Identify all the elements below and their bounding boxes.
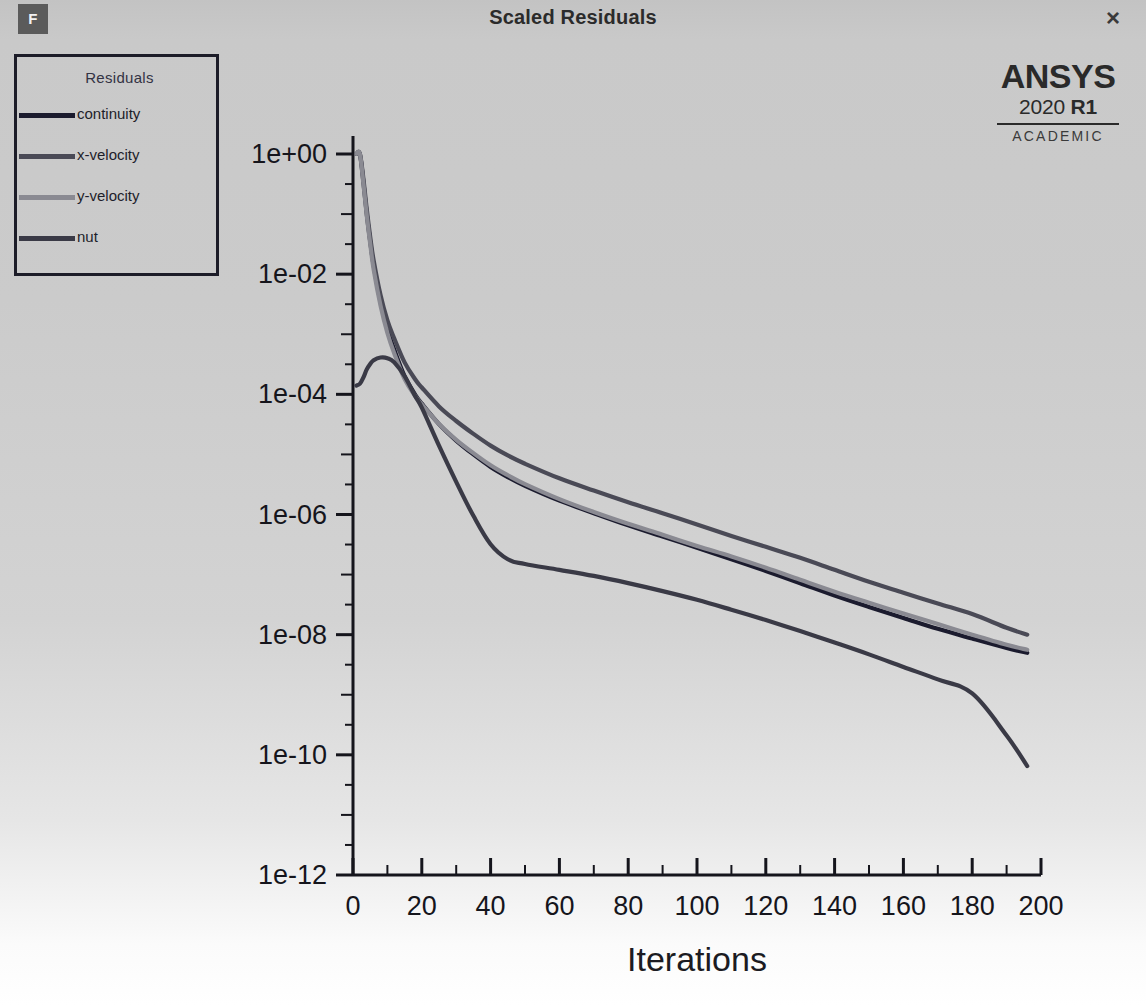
x-tick-label: 80 [613, 891, 643, 921]
legend-color-swatch-icon [19, 236, 75, 241]
series-line-y-velocity [356, 152, 1027, 650]
series-line-x-velocity [356, 152, 1027, 635]
legend-item-label: continuity [77, 105, 140, 122]
legend-color-swatch-icon [19, 195, 75, 200]
x-tick-label: 0 [345, 891, 360, 921]
x-tick-label: 160 [881, 891, 926, 921]
x-tick-label: 100 [674, 891, 719, 921]
ansys-logo: ANSYS 2020 R1 ACADEMIC [978, 58, 1138, 144]
ansys-license-label: ACADEMIC [978, 128, 1138, 144]
ansys-wordmark: ANSYS [978, 58, 1138, 94]
y-tick-label: 1e-10 [258, 740, 327, 770]
series-line-continuity [356, 152, 1027, 653]
y-axis-tick-labels: 1e+001e-021e-041e-061e-081e-101e-12 [251, 139, 327, 890]
x-tick-label: 180 [950, 891, 995, 921]
legend-item-label: nut [77, 228, 98, 245]
series-line-nut [356, 357, 1027, 766]
ansys-version-year: 2020 [1019, 95, 1065, 118]
series-lines [356, 152, 1027, 766]
y-tick-label: 1e-06 [258, 500, 327, 530]
legend-item-label: x-velocity [77, 146, 140, 163]
y-tick-label: 1e-02 [258, 259, 327, 289]
x-tick-label: 60 [544, 891, 574, 921]
ansys-version-release: R1 [1071, 95, 1097, 118]
y-tick-label: 1e+00 [251, 139, 327, 169]
ansys-version: 2020 R1 [978, 94, 1138, 120]
y-tick-label: 1e-08 [258, 620, 327, 650]
legend-title: Residuals [17, 69, 222, 86]
x-tick-label: 40 [476, 891, 506, 921]
y-tick-label: 1e-04 [258, 379, 327, 409]
y-axis-ticks [336, 154, 353, 875]
legend-color-swatch-icon [19, 154, 75, 159]
x-axis-tick-labels: 020406080100120140160180200 [345, 891, 1063, 921]
x-tick-label: 120 [743, 891, 788, 921]
legend-color-swatch-icon [19, 113, 75, 118]
scaled-residuals-window: F Scaled Residuals × 1e+001e-021e-041e-0… [0, 0, 1146, 1006]
x-axis-title: Iterations [353, 940, 1041, 979]
logo-divider [997, 123, 1119, 125]
legend-item-label: y-velocity [77, 187, 140, 204]
x-tick-label: 200 [1018, 891, 1063, 921]
x-axis-ticks [353, 858, 1041, 875]
x-tick-label: 20 [407, 891, 437, 921]
y-tick-label: 1e-12 [258, 860, 327, 890]
x-tick-label: 140 [812, 891, 857, 921]
legend: Residuals continuityx-velocityy-velocity… [14, 54, 219, 276]
